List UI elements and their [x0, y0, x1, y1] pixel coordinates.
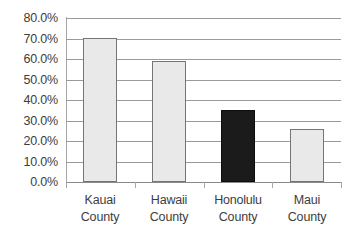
- category-label-line-2: County: [288, 209, 326, 226]
- x-axis-tick: [66, 182, 67, 188]
- bar-maui-county[interactable]: [290, 129, 324, 182]
- bar-chart: 0.0%10.0%20.0%30.0%40.0%50.0%60.0%70.0%8…: [0, 0, 348, 247]
- category-label-line-2: County: [150, 209, 188, 226]
- y-axis-tick-label: 10.0%: [24, 155, 58, 168]
- x-axis-tick: [135, 182, 136, 188]
- y-axis-tick-label: 40.0%: [24, 94, 58, 107]
- plot-area: [66, 18, 341, 182]
- x-axis: KauaiCountyHawaiiCountyHonoluluCountyMau…: [66, 192, 341, 244]
- category-label-line-1: Kauai: [85, 193, 116, 207]
- x-axis-tick: [204, 182, 205, 188]
- category-label-line-1: Maui: [294, 193, 320, 207]
- y-axis-tick-label: 80.0%: [24, 12, 58, 25]
- y-axis-tick-label: 0.0%: [30, 176, 58, 189]
- category-label-line-2: County: [214, 209, 262, 226]
- y-axis-tick-label: 30.0%: [24, 114, 58, 127]
- x-axis-tick: [272, 182, 273, 188]
- bars-group: [66, 18, 341, 182]
- x-axis-category-label: HawaiiCounty: [150, 192, 188, 226]
- y-axis-tick-label: 60.0%: [24, 53, 58, 66]
- bar-hawaii-county[interactable]: [152, 61, 186, 182]
- category-label-line-1: Hawaii: [151, 193, 187, 207]
- y-axis-tick-label: 50.0%: [24, 73, 58, 86]
- category-label-line-2: County: [81, 209, 119, 226]
- x-axis-category-label: MauiCounty: [288, 192, 326, 226]
- bar-honolulu-county[interactable]: [221, 110, 255, 182]
- x-axis-ticks: [66, 182, 341, 188]
- x-axis-tick: [341, 182, 342, 188]
- x-axis-category-label: HonoluluCounty: [214, 192, 262, 226]
- y-axis-tick-label: 20.0%: [24, 135, 58, 148]
- x-axis-category-label: KauaiCounty: [81, 192, 119, 226]
- y-axis: 0.0%10.0%20.0%30.0%40.0%50.0%60.0%70.0%8…: [0, 0, 62, 247]
- y-axis-tick-label: 70.0%: [24, 32, 58, 45]
- bar-kauai-county[interactable]: [83, 38, 117, 182]
- category-label-line-1: Honolulu: [214, 193, 262, 207]
